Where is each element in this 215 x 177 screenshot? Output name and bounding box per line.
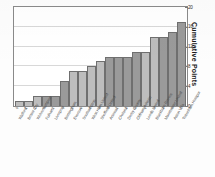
x-axis-label-cell: Manchester United	[160, 118, 169, 174]
y-axis-tick-mark	[185, 66, 188, 67]
bar	[15, 101, 24, 106]
x-axis-label-cell: Wolverhampton	[32, 118, 41, 174]
x-axis-label-cell: Arsenal	[105, 118, 114, 174]
y-axis-tick-label: 20	[188, 5, 193, 10]
y-axis-tick-label: 4	[188, 84, 190, 89]
y-axis-tick-mark	[185, 86, 188, 87]
plot-area	[13, 6, 188, 107]
x-axis-label-cell: Southampton	[78, 118, 87, 174]
x-axis-label-cell: Sheffield United	[96, 118, 105, 174]
y-axis-tick-label: 8	[188, 64, 190, 69]
x-axis-label-cell: Watford	[14, 118, 23, 174]
x-axis-label-cell: Tottenham Hotspur	[178, 118, 187, 174]
x-axis-label-cell: Birmingham	[60, 118, 69, 174]
x-axis-label-cell: Blackburn Rovers	[151, 118, 160, 174]
x-axis-label-cell: Aston Villa	[169, 118, 178, 174]
x-axis-labels: WatfordBristol CityWolverhamptonFulhamLi…	[13, 118, 188, 174]
bar-series	[14, 7, 187, 106]
x-axis-label-cell: Oldham Athletic	[132, 118, 141, 174]
y-axis-tick-mark	[185, 27, 188, 28]
bar	[123, 57, 132, 107]
y-axis-tick-mark	[185, 7, 188, 8]
bar	[78, 71, 87, 106]
x-axis-label-cell: Chelsea	[114, 118, 123, 174]
x-axis-label-cell: West Ham United	[87, 118, 96, 174]
x-axis-label-cell: Bristol City	[23, 118, 32, 174]
x-axis-label-cell: Derby County	[123, 118, 132, 174]
bar	[60, 81, 69, 106]
y-axis-title: Cumulative Points	[191, 22, 198, 92]
bar	[24, 101, 33, 106]
y-axis-tick-mark	[185, 47, 188, 48]
x-axis-label-cell: Liverpool	[50, 118, 59, 174]
x-axis-label-cell: Fulham	[41, 118, 50, 174]
chart-figure: 048121620 Cumulative Points 011010101001…	[0, 0, 215, 177]
x-axis-label-cell: Leeds United	[142, 118, 151, 174]
x-axis-label-cell: Everton	[69, 118, 78, 174]
